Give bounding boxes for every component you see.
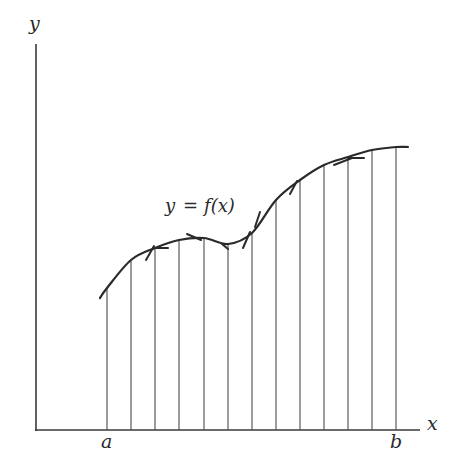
x-axis-label: x	[427, 412, 438, 434]
b-label: b	[390, 430, 402, 452]
svg-text:f(x): f(x)	[202, 195, 235, 216]
y-axis-label: y	[28, 12, 40, 34]
a-label: a	[101, 430, 112, 452]
function-curve	[100, 147, 408, 298]
area-under-curve-diagram: y x a b y = f(x)	[0, 0, 462, 472]
curve-equation-label: y = f(x)	[164, 195, 235, 216]
svg-text:=: =	[183, 195, 198, 216]
partition-ordinates	[107, 147, 396, 430]
svg-text:y: y	[164, 195, 176, 216]
